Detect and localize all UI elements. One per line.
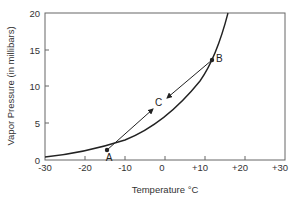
point-a-label: A xyxy=(106,152,113,163)
y-tick-label: 5 xyxy=(35,118,40,129)
y-axis-title: Vapor Pressure (in millibars) xyxy=(5,26,16,145)
x-tick-label: 0 xyxy=(159,162,164,173)
saturation-curve xyxy=(45,13,228,157)
x-tick-label: +20 xyxy=(232,162,248,173)
x-tick-label: -20 xyxy=(78,162,92,173)
x-tick-labels: -30 -20 -10 0 +10 +20 +30 xyxy=(38,162,288,173)
point-b-label: B xyxy=(216,53,223,64)
point-b-marker xyxy=(210,58,214,62)
vapor-pressure-chart: 0 5 10 15 20 -30 -20 -10 0 +10 +20 +30 T… xyxy=(0,0,296,205)
x-tick-label: +30 xyxy=(272,162,288,173)
y-tick-label: 10 xyxy=(29,81,40,92)
plot-frame xyxy=(45,13,285,160)
y-tick-label: 15 xyxy=(29,45,40,56)
x-axis-title: Temperature °C xyxy=(132,184,199,195)
y-axis xyxy=(45,50,49,123)
x-tick-label: -30 xyxy=(38,162,52,173)
y-tick-labels: 0 5 10 15 20 xyxy=(29,8,40,166)
y-tick-label: 20 xyxy=(29,8,40,19)
x-tick-label: -10 xyxy=(118,162,132,173)
point-c-label: C xyxy=(155,97,162,108)
x-tick-label: +10 xyxy=(192,162,208,173)
